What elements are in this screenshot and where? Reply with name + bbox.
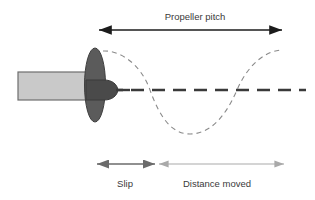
diagram-canvas: Propeller pitch Slip Distance moved bbox=[0, 0, 315, 200]
distance-moved-label: Distance moved bbox=[183, 178, 251, 189]
slip-label: Slip bbox=[117, 178, 133, 189]
propeller-pitch-diagram: Propeller pitch Slip Distance moved bbox=[0, 0, 315, 200]
propeller-pitch-label: Propeller pitch bbox=[165, 11, 226, 22]
nose-cone bbox=[86, 80, 118, 100]
hull-rectangle bbox=[18, 72, 95, 100]
